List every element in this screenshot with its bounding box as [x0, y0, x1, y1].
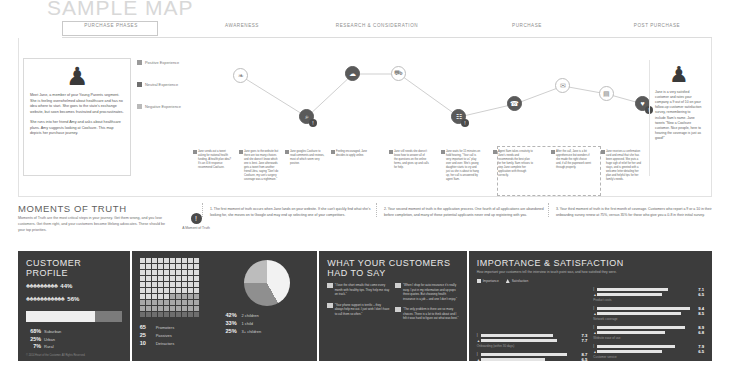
is-bar-satisfaction: ▲8.5	[593, 312, 704, 316]
waffle-cell	[194, 276, 199, 281]
moment-number: 3.	[556, 207, 559, 211]
legend-item-neg: Negative Experience	[137, 104, 203, 109]
importance-satisfaction-title: IMPORTANCE & SATISFACTION	[477, 258, 704, 268]
shopping-cart-icon[interactable]: ⛟	[391, 66, 406, 81]
journey-map: AWARENESSRESEARCH & CONSIDERATIONPURCHAS…	[18, 22, 712, 197]
bar-value: 8.5	[698, 311, 704, 316]
touchpoint-card: Jane sends out a tweet asking for nation…	[193, 150, 233, 194]
importance-satisfaction-description: How important your customers tell the in…	[477, 270, 704, 275]
quotes-title: WHAT YOUR CUSTOMERS HAD TO SAY	[327, 258, 459, 278]
is-bar-satisfaction: ▲6.5	[477, 358, 588, 361]
waffle-cell	[194, 282, 199, 287]
moment-number: 1.	[210, 207, 213, 211]
bar-track	[481, 358, 580, 361]
bar-value: 9.4	[698, 306, 704, 311]
is-bar-importance: |7.9	[593, 344, 704, 348]
waffle-cell	[176, 306, 181, 311]
waffle-cell	[170, 288, 175, 293]
touchpoint-card: Jane still needs she doesn't know how to…	[389, 150, 429, 194]
outcome-card: ♟ Jane is a very satisfied customer and …	[649, 60, 707, 176]
legend-item-neu: Neutral Experience	[137, 82, 203, 87]
bar-track	[597, 331, 696, 334]
waffle-cell	[176, 288, 181, 293]
page-title: SAMPLE MAP	[47, 0, 194, 20]
waffle-cell	[140, 288, 145, 293]
bar-value: 7.3	[582, 333, 588, 338]
waffle-cell	[194, 288, 199, 293]
card-text: Feeling encouraged, Jane decides to appl…	[336, 150, 371, 158]
legend-swatch-icon	[137, 104, 142, 109]
waffle-cell	[152, 306, 157, 311]
waffle-cell	[146, 258, 151, 263]
customer-quotes-panel: WHAT YOUR CUSTOMERS HAD TO SAY "I love t…	[319, 251, 467, 361]
waffle-cell	[140, 276, 145, 281]
waffle-cell	[140, 270, 145, 275]
legend-swatch-icon	[137, 82, 142, 87]
moment-of-truth-key-label: A Moment of Truth	[176, 226, 216, 230]
geography-breakdown: 68%Suburban25%Urban7%Rural	[26, 328, 122, 349]
twitter-bird-icon[interactable]: ❧	[233, 68, 248, 83]
geography-label: Rural	[44, 344, 54, 349]
waffle-cell	[140, 258, 145, 263]
bar-fill	[597, 326, 685, 329]
nps-waffle-chart	[140, 258, 222, 317]
card-marker-icon	[331, 150, 335, 154]
geography-row: 25%Urban	[26, 336, 122, 342]
bar-track	[597, 288, 696, 291]
waffle-cell	[194, 294, 199, 299]
card-icon[interactable]: ▤	[599, 86, 614, 101]
card-marker-icon	[285, 150, 289, 154]
waffle-cell	[194, 306, 199, 311]
is-bar-importance: |7.3	[477, 333, 588, 337]
card-text: Jane waits for 15 minutes on hold hearin…	[446, 150, 481, 182]
waffle-cell	[170, 264, 175, 269]
waffle-cell	[176, 264, 181, 269]
waffle-cell	[152, 312, 157, 317]
waffle-cell	[140, 282, 145, 287]
bar-value: 6.5	[582, 357, 588, 361]
waffle-cell	[158, 300, 163, 305]
gender-pictogram-row: ♠♠♠♠♠♠♠♠♠44%	[26, 281, 122, 291]
waffle-cell	[170, 270, 175, 275]
phone-call-icon[interactable]: ☎	[507, 96, 522, 111]
waffle-cell	[176, 300, 181, 305]
waffle-cell	[158, 306, 163, 311]
moment-text: Your second moment of truth is the appli…	[384, 207, 544, 217]
card-text: Jane sends out a tweet asking for nation…	[198, 150, 233, 170]
waffle-cell	[188, 282, 193, 287]
card-text: Jane still needs she doesn't know how to…	[394, 150, 429, 170]
is-group: |7.1▲6.5Product costs	[593, 287, 704, 302]
nps-legend-row: 65Promoters	[140, 324, 222, 330]
cloud-icon[interactable]: ☁	[345, 66, 360, 81]
waffle-cell	[188, 270, 193, 275]
moment-of-truth-item-1: 1. The first moment of truth occurs when…	[210, 207, 380, 218]
waffle-cell	[146, 306, 151, 311]
waffle-cell	[152, 264, 157, 269]
customer-quote: "I love the short emails that come every…	[327, 283, 390, 297]
moment-text: Your third moment of truth is the first …	[556, 207, 712, 217]
waffle-cell	[188, 300, 193, 305]
waffle-cell	[188, 312, 193, 317]
waffle-cell	[176, 276, 181, 281]
journey-map-frame: ♟ Meet Jane, a member of your Young Pare…	[18, 38, 712, 197]
geography-pct: 68%	[26, 328, 41, 334]
bar-track	[597, 293, 696, 296]
children-pie-legend: 42%2 children33%1 child25%3+ children	[225, 312, 309, 334]
waffle-cell	[152, 282, 157, 287]
phase-label-3: POST PURCHASE	[582, 23, 730, 28]
waffle-cell	[146, 264, 151, 269]
mail-envelope-icon[interactable]: ✉	[555, 78, 570, 93]
bar-track	[481, 353, 580, 356]
gender-pictogram-row: ♠♠♠♠♠♠♠♠♠♠♠56%	[26, 294, 122, 304]
profile-bar-track	[26, 311, 122, 322]
is-legend-label: Satisfaction	[512, 279, 528, 283]
is-bar-satisfaction: ▲7.7	[477, 339, 588, 343]
bar-track	[597, 326, 696, 329]
waffle-cell	[158, 270, 163, 275]
connector-dots	[548, 203, 549, 217]
children-block: 42%2 children33%1 child25%3+ children	[221, 258, 309, 354]
waffle-cell	[182, 264, 187, 269]
phase-label-2: PURCHASE	[452, 23, 602, 28]
legend-label: Neutral Experience	[145, 82, 178, 87]
is-group-label: Customer service	[593, 355, 704, 359]
